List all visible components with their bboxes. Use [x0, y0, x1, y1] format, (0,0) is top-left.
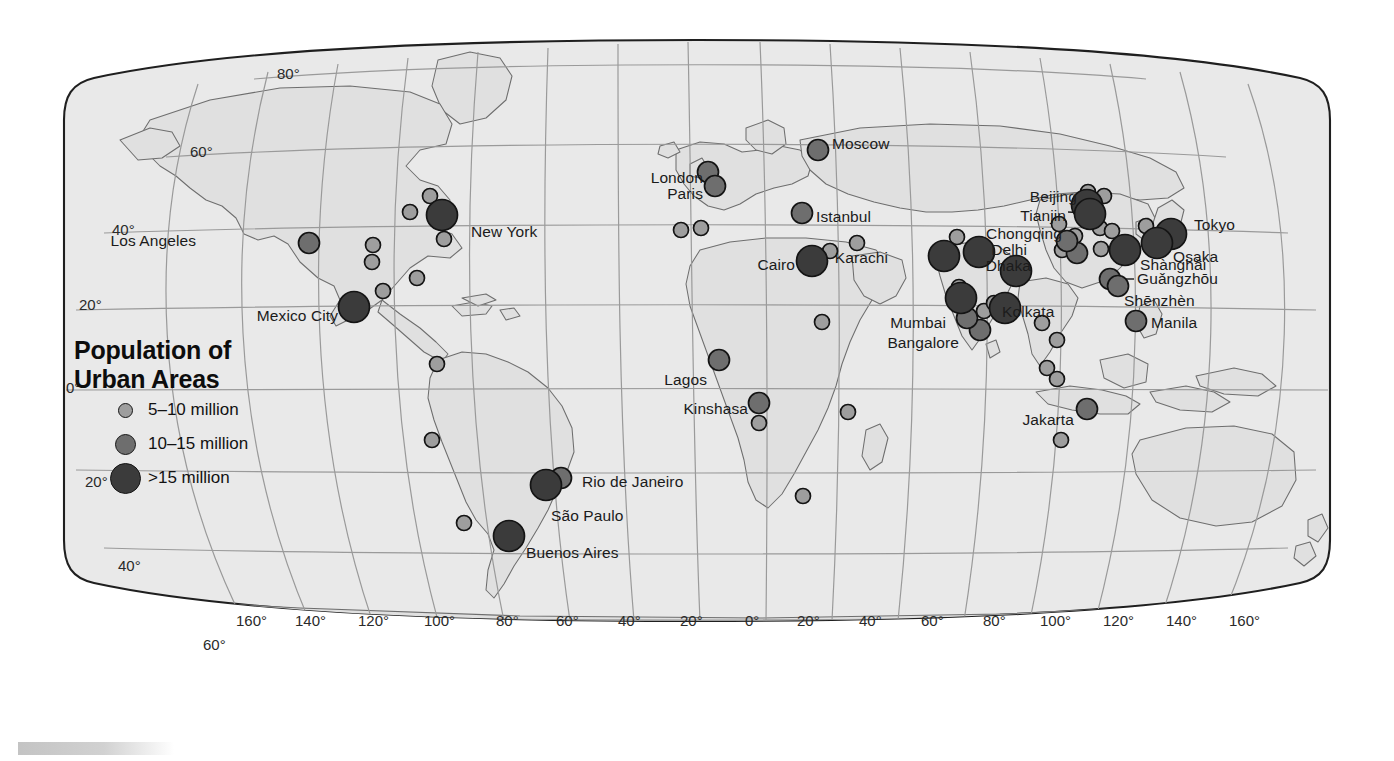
legend-swatch-wrap — [102, 434, 148, 455]
city-marker — [1094, 242, 1109, 257]
city-marker — [425, 433, 440, 448]
legend-label: >15 million — [148, 468, 230, 488]
legend: Population of Urban Areas 5–10 million10… — [74, 336, 324, 495]
city-marker — [457, 516, 472, 531]
city-marker-dhaka — [1001, 256, 1032, 287]
city-marker-lagos — [709, 350, 730, 371]
city-marker-paris — [705, 176, 726, 197]
city-marker-los-angeles — [299, 233, 320, 254]
legend-label: 10–15 million — [148, 434, 248, 454]
city-marker-delhi — [964, 237, 995, 268]
legend-row-1: 10–15 million — [102, 427, 324, 461]
city-marker — [1050, 333, 1065, 348]
city-marker — [841, 405, 856, 420]
city-marker — [1050, 372, 1065, 387]
city-marker-sh-ngh-i — [1110, 235, 1141, 266]
city-marker — [1052, 217, 1067, 232]
city-marker-mexico-city — [339, 292, 370, 323]
city-marker — [1035, 316, 1050, 331]
legend-swatch-circle — [115, 434, 136, 455]
city-marker-istanbul — [792, 203, 813, 224]
legend-label: 5–10 million — [148, 400, 239, 420]
city-marker-kolkata — [990, 293, 1021, 324]
city-marker-tianjin — [1075, 199, 1106, 230]
city-marker — [752, 416, 767, 431]
legend-title-line2: Urban Areas — [74, 365, 324, 394]
legend-swatch-circle — [110, 463, 141, 494]
city-marker-new-york — [427, 200, 458, 231]
city-marker — [403, 205, 418, 220]
legend-rows: 5–10 million10–15 million>15 million — [74, 393, 324, 495]
city-marker-osaka — [1142, 228, 1173, 259]
legend-row-0: 5–10 million — [102, 393, 324, 427]
legend-row-2: >15 million — [102, 461, 324, 495]
city-marker — [674, 223, 689, 238]
city-marker-chongqing — [1057, 231, 1078, 252]
city-marker-manila — [1126, 311, 1147, 332]
legend-title-line1: Population of — [74, 336, 324, 365]
city-marker-kinshasa — [749, 393, 770, 414]
city-marker-buenos-aires — [494, 521, 525, 552]
city-marker — [430, 357, 445, 372]
legend-swatch-wrap — [102, 403, 148, 418]
legend-title: Population of Urban Areas — [74, 336, 324, 393]
legend-swatch-wrap — [102, 463, 148, 494]
world-map-figure: Los AngelesNew YorkMexico CityRio de Jan… — [0, 0, 1394, 761]
city-marker — [366, 238, 381, 253]
city-marker — [410, 271, 425, 286]
city-marker-mumbai — [946, 283, 977, 314]
scan-artifact-bar — [18, 742, 174, 755]
city-marker-karachi — [929, 241, 960, 272]
legend-swatch-circle — [118, 403, 133, 418]
city-marker — [437, 232, 452, 247]
city-marker-s-o-paulo — [531, 470, 562, 501]
city-marker — [365, 255, 380, 270]
city-marker — [796, 489, 811, 504]
city-marker-cairo — [797, 246, 828, 277]
city-marker — [815, 315, 830, 330]
city-marker — [694, 221, 709, 236]
city-marker-sh-nzh-n — [1108, 276, 1129, 297]
city-marker-moscow — [808, 140, 829, 161]
city-marker — [1054, 433, 1069, 448]
city-marker — [376, 284, 391, 299]
city-marker — [850, 236, 865, 251]
city-marker-jakarta — [1077, 399, 1098, 420]
